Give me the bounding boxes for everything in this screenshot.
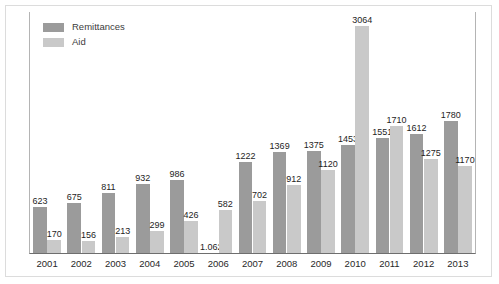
bar-remittances-2011[interactable] (376, 138, 390, 253)
plot-area: 6231706751568112139322999864261.06258212… (30, 12, 475, 253)
bar-value-label-aid-2013: 1170 (451, 155, 479, 165)
bar-aid-2002[interactable] (82, 241, 96, 253)
x-tick-2011: 2011 (372, 258, 406, 270)
bar-value-label-aid-2009: 1120 (314, 159, 342, 169)
bar-remittances-2004[interactable] (136, 184, 150, 253)
bar-aid-2003[interactable] (116, 237, 130, 253)
bar-aid-2004[interactable] (150, 231, 164, 253)
bar-remittances-2013[interactable] (444, 121, 458, 253)
bar-aid-2011[interactable] (390, 126, 404, 253)
bar-remittances-2003[interactable] (102, 193, 116, 253)
x-tick-2006: 2006 (201, 258, 235, 270)
bar-group-2006: 1.062582 (204, 12, 232, 253)
bar-remittances-2007[interactable] (239, 162, 253, 253)
x-tick-2010: 2010 (338, 258, 372, 270)
x-tick-2001: 2001 (30, 258, 64, 270)
x-tick-2007: 2007 (235, 258, 269, 270)
bar-value-label-aid-2004: 299 (143, 220, 171, 230)
bar-group-2013: 17801170 (444, 12, 472, 253)
x-tick-2005: 2005 (167, 258, 201, 270)
bar-aid-2009[interactable] (321, 170, 335, 253)
bar-value-label-aid-2007: 702 (246, 190, 274, 200)
bar-value-label-remittances-2002: 675 (60, 192, 88, 202)
bar-value-label-aid-2002: 156 (75, 230, 103, 240)
bar-value-label-remittances-2001: 623 (26, 196, 54, 206)
bar-value-label-aid-2006: 582 (212, 199, 240, 209)
bar-value-label-remittances-2012: 1612 (403, 123, 431, 133)
bar-group-2002: 675156 (67, 12, 95, 253)
bar-value-label-aid-2010: 3064 (348, 15, 376, 25)
bar-remittances-2002[interactable] (67, 203, 81, 253)
bar-value-label-aid-2012: 1275 (417, 148, 445, 158)
x-tick-2004: 2004 (133, 258, 167, 270)
x-tick-2009: 2009 (304, 258, 338, 270)
bar-value-label-aid-2005: 426 (177, 210, 205, 220)
bar-group-2005: 986426 (170, 12, 198, 253)
bar-value-label-remittances-2003: 811 (95, 182, 123, 192)
bar-remittances-2008[interactable] (273, 152, 287, 253)
bar-value-label-remittances-2005: 986 (163, 169, 191, 179)
bar-group-2011: 15511710 (376, 12, 404, 253)
x-tick-2008: 2008 (270, 258, 304, 270)
bar-aid-2006[interactable] (219, 210, 233, 253)
x-tick-2012: 2012 (407, 258, 441, 270)
bar-value-label-remittances-2004: 932 (129, 173, 157, 183)
bar-value-label-remittances-2007: 1222 (232, 151, 260, 161)
bar-group-2009: 13751120 (307, 12, 335, 253)
bar-group-2012: 16121275 (410, 12, 438, 253)
bar-value-label-remittances-2013: 1780 (437, 110, 465, 120)
bar-value-label-remittances-2008: 1369 (266, 141, 294, 151)
bar-aid-2013[interactable] (458, 166, 472, 253)
bar-group-2008: 1369912 (273, 12, 301, 253)
bar-group-2007: 1222702 (239, 12, 267, 253)
bar-group-2004: 932299 (136, 12, 164, 253)
x-axis-tick-labels: 2001200220032004200520062007200820092010… (30, 258, 475, 274)
bar-aid-2007[interactable] (253, 201, 267, 253)
bar-aid-2010[interactable] (355, 26, 369, 253)
x-tick-2013: 2013 (441, 258, 475, 270)
bar-remittances-2010[interactable] (341, 145, 355, 253)
bar-chart-figure: RemittancesAid 6231706751568112139322999… (0, 0, 499, 284)
bar-value-label-aid-2001: 170 (40, 229, 68, 239)
bar-group-2003: 811213 (102, 12, 130, 253)
bar-aid-2001[interactable] (47, 240, 61, 253)
bar-group-2010: 14533064 (341, 12, 369, 253)
bar-aid-2005[interactable] (184, 221, 198, 253)
bar-value-label-aid-2008: 912 (280, 174, 308, 184)
x-tick-2003: 2003 (98, 258, 132, 270)
bar-value-label-aid-2003: 213 (109, 226, 137, 236)
x-tick-2002: 2002 (64, 258, 98, 270)
bar-value-label-remittances-2009: 1375 (300, 140, 328, 150)
bar-aid-2012[interactable] (424, 159, 438, 253)
bar-aid-2008[interactable] (287, 185, 301, 253)
bar-group-2001: 623170 (33, 12, 61, 253)
